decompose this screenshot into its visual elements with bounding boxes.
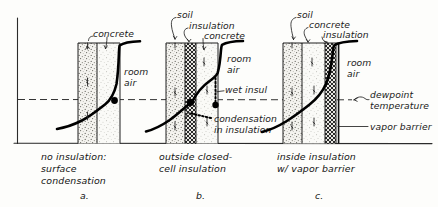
dewpoint-label-line-2: temperature (370, 100, 429, 111)
dewpoint-callout: dewpoint temperature (354, 89, 429, 111)
panel-b-label-room-air-1: room (227, 53, 251, 64)
panel-c: soil concrete insulation room air dewpoi… (262, 9, 433, 201)
panel-a-layer-soil (78, 43, 97, 144)
panel-b-condensation-node-insulation (187, 99, 194, 106)
panel-c-layer-insulation (325, 43, 336, 144)
panel-b-label-condensation-1: condensation (214, 113, 277, 124)
panel-a-label-concrete: concrete (93, 28, 134, 39)
dewpoint-label-line-1: dewpoint (370, 89, 414, 100)
panel-c-label-vapor-barrier: vapor barrier (370, 121, 433, 132)
panel-c-label-insulation: insulation (323, 29, 369, 40)
panel-a-caption-line-1: no insulation: (41, 151, 107, 162)
panel-b-callout-soil-leader (171, 18, 176, 40)
panel-a-letter: a. (80, 190, 89, 201)
panel-c-label-room-air-1: room (347, 57, 371, 68)
panel-c-callout-soil-leader (291, 18, 296, 40)
panel-b-caption-line-2: cell insulation (159, 163, 226, 174)
panel-c-label-room-air-2: air (347, 68, 360, 79)
panel-c-caption-line-1: inside insulation (277, 151, 356, 162)
panel-a-caption-line-2: surface (41, 163, 77, 174)
panel-b-layer-insulation (185, 43, 196, 144)
panel-c-callout-concrete-leader (304, 28, 308, 43)
panel-c-caption-line-2: w/ vapor barrier (277, 163, 356, 174)
panel-b-callout-insulation-arrow (187, 39, 191, 42)
panel-a: concrete room air no insulation: surface… (41, 28, 148, 201)
vapor-barrier-callout: vapor barrier (338, 121, 433, 132)
panel-b-label-concrete: concrete (204, 30, 245, 41)
panel-b-label-soil: soil (177, 9, 193, 20)
panel-a-label-room-air-1: room (124, 66, 148, 77)
panel-b-caption-line-1: outside closed- (159, 151, 233, 162)
panel-c-callout-concrete-arrow (306, 39, 310, 42)
figure-canvas: concrete room air no insulation: surface… (0, 0, 438, 207)
panel-b-label-condensation-2: in insulation (214, 124, 271, 135)
panel-a-caption-line-3: condensation (41, 175, 106, 186)
panel-c-callouts: soil concrete insulation (291, 9, 369, 44)
panel-a-layer-concrete (97, 43, 120, 144)
panel-a-label-room-air-2: air (124, 77, 137, 88)
panel-b-callout-soil-arrow (173, 36, 176, 39)
panel-c-letter: c. (315, 190, 323, 201)
panel-b-label-wet-insul: wet insul (225, 84, 267, 95)
panel-b-label-room-air-2: air (227, 64, 240, 75)
panel-b-letter: b. (196, 190, 205, 201)
panel-b: soil insulation concrete room air wet in… (146, 9, 277, 201)
panel-a-condensation-node (111, 97, 118, 104)
